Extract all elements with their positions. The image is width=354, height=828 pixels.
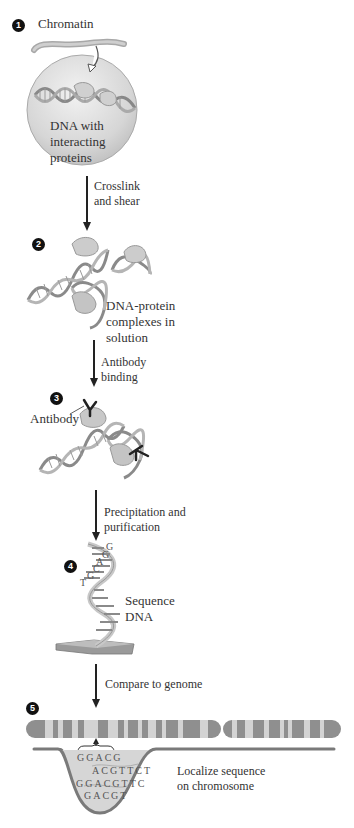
step-5-badge: 5 [26, 702, 39, 715]
base-letter-g3: G [87, 570, 94, 581]
antibody-bound-complexes-illustration [0, 390, 240, 490]
crosslink-shear-label: Crosslink and shear [94, 179, 140, 209]
read-1: GGACG [77, 752, 123, 763]
arrow-antibody-binding [93, 340, 95, 380]
compare-to-genome-label: Compare to genome [105, 677, 202, 692]
dna-with-proteins-label: DNA with interacting proteins [50, 118, 106, 166]
precipitation-purification-label: Precipitation and purification [104, 505, 186, 535]
arrow-head-antibody-binding [90, 378, 98, 387]
read-3: GGACGTTC [76, 778, 146, 789]
arrow-compare-genome [95, 664, 97, 701]
dna-protein-complexes-label: DNA-protein complexes in solution [106, 298, 175, 346]
arrow-head-compare-genome [92, 699, 100, 708]
base-letter-t: T [80, 577, 86, 588]
antibody-binding-label: Antibody binding [101, 355, 146, 385]
localize-sequence-label: Localize sequence on chromosome [177, 764, 265, 794]
read-4: GACGT [84, 790, 128, 801]
read-2: ACGTTCT [92, 765, 152, 776]
arrow-precipitation [95, 490, 97, 534]
arrow-crosslink [86, 176, 88, 224]
sequence-dna-label: Sequence DNA [125, 593, 175, 625]
